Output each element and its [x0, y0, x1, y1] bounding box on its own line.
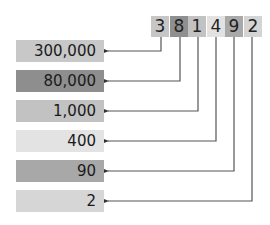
- digit-box: 9: [225, 16, 243, 37]
- connector-1: [108, 37, 198, 111]
- connector-3: [108, 37, 161, 51]
- connector-9: [108, 37, 234, 171]
- connector-4: [108, 37, 216, 141]
- place-value-box: 80,000: [16, 70, 104, 92]
- digit-box: 2: [244, 16, 262, 37]
- place-value-box: 1,000: [16, 100, 104, 122]
- digit-box: 1: [188, 16, 206, 37]
- place-value-box: 400: [16, 130, 104, 152]
- digit-box: 3: [151, 16, 169, 37]
- place-value-box: 2: [16, 190, 104, 212]
- place-value-box: 90: [16, 160, 104, 182]
- connector-8: [108, 37, 180, 81]
- digit-box: 4: [207, 16, 225, 37]
- place-value-box: 300,000: [16, 40, 104, 62]
- digit-box: 8: [170, 16, 188, 37]
